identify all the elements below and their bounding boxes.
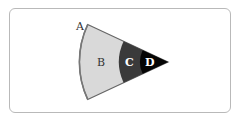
label-d: D <box>145 56 155 69</box>
label-a: A <box>75 20 85 33</box>
label-c: C <box>125 56 134 69</box>
label-b: B <box>97 56 105 69</box>
sector-diagram: A B C D <box>0 0 247 120</box>
